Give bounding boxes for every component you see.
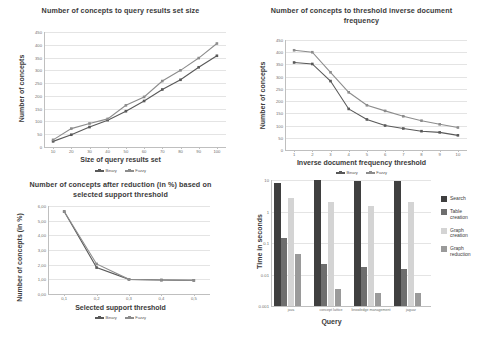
y-tick-label: 5,00: [38, 218, 46, 223]
x-tick: [129, 294, 130, 296]
bar: [415, 293, 421, 306]
legend-item: Search: [441, 196, 471, 202]
x-tick-label: 60: [142, 149, 147, 154]
legend-marker-icon: [125, 170, 134, 172]
data-point: [402, 115, 405, 118]
x-tick: [440, 150, 441, 152]
x-axis-label: Selected support threshold: [0, 304, 241, 311]
x-tick: [217, 147, 218, 149]
x-tick: [126, 147, 127, 149]
x-tick: [161, 294, 162, 296]
data-point: [106, 118, 109, 121]
legend-marker-icon: [336, 172, 345, 174]
y-tick-label: 400: [35, 42, 42, 47]
bar: [375, 293, 381, 306]
x-tick-label: 5: [366, 152, 368, 157]
bar: [408, 202, 414, 306]
x-tick: [385, 150, 386, 152]
legend-swatch-icon: [441, 228, 447, 234]
plot-area: 05010015020025030035040045012345678910: [285, 40, 467, 150]
y-tick-label: 400: [276, 50, 283, 55]
x-tick-label: 30: [87, 149, 92, 154]
plot-area: 0,001,002,003,004,005,006,000,10,20,30,4…: [48, 206, 210, 294]
y-tick-label: 150: [35, 106, 42, 111]
data-point: [70, 133, 73, 136]
x-tick: [108, 147, 109, 149]
data-point: [457, 134, 460, 137]
y-tick-label: 1: [267, 209, 269, 214]
legend-swatch-icon: [441, 196, 447, 202]
y-tick-label: 1,00: [38, 277, 46, 282]
x-tick-label: 0,3: [126, 296, 132, 301]
legend-item: Graph creation: [441, 228, 471, 240]
bar: [354, 181, 360, 306]
y-axis-label: Number of concepts: [18, 49, 25, 129]
x-tick-label: 1: [293, 152, 295, 157]
x-tick: [294, 150, 295, 152]
legend-label: Table creation: [450, 209, 468, 221]
x-tick: [349, 150, 350, 152]
y-tick-label: 0: [281, 148, 283, 153]
bar: [335, 289, 341, 306]
x-tick-label: 0,4: [158, 296, 164, 301]
bar: [328, 202, 334, 306]
data-point: [457, 126, 460, 129]
series-line: [294, 50, 458, 127]
bar: [274, 183, 280, 306]
data-point: [420, 130, 423, 133]
x-axis-label: Size of query results set: [0, 156, 241, 163]
x-tick-label: 0,2: [94, 296, 100, 301]
y-tick-label: 3,00: [38, 248, 46, 253]
x-tick-label: java: [288, 308, 295, 312]
x-tick-label: 80: [178, 149, 183, 154]
x-tick-label: 9: [439, 152, 441, 157]
data-point: [88, 126, 91, 129]
x-tick: [181, 147, 182, 149]
y-axis-line: [271, 180, 272, 306]
chart-legend: SearchTable creationGraph creationGraph …: [441, 196, 471, 265]
legend-item: Graph reduction: [441, 246, 471, 258]
data-point: [95, 263, 98, 266]
chart-title: Number of concepts to query results set …: [0, 6, 241, 16]
data-point: [293, 61, 296, 64]
data-point: [438, 123, 441, 126]
legend-marker-icon: [366, 172, 375, 174]
data-point: [88, 122, 91, 125]
x-tick-label: 3: [329, 152, 331, 157]
x-tick: [367, 150, 368, 152]
y-axis-label: Number of concepts: [259, 56, 266, 136]
data-point: [216, 42, 219, 45]
legend-label: Graph creation: [450, 228, 468, 240]
legend-swatch-icon: [441, 246, 447, 252]
y-tick-label: 200: [35, 93, 42, 98]
y-tick-label: 0,00: [38, 292, 46, 297]
y-tick-label: 450: [276, 38, 283, 43]
chart-legend: BinaryFuzzy: [0, 315, 241, 320]
plot-area: 0.0010.010.1110javaconcept latticeknowle…: [271, 180, 431, 306]
gridline: [271, 180, 431, 181]
chart-title: Number of concepts after reduction (in %…: [24, 180, 217, 199]
data-point: [63, 210, 66, 213]
y-tick-label: 100: [35, 119, 42, 124]
x-tick: [144, 147, 145, 149]
x-tick: [64, 294, 65, 296]
data-point: [193, 279, 196, 282]
data-point: [179, 78, 182, 81]
data-point: [70, 127, 73, 130]
plot-area: 0501001502002503003504004501020304050607…: [44, 32, 226, 147]
x-tick: [90, 147, 91, 149]
x-tick-label: concept lattice: [320, 308, 343, 312]
data-point: [366, 118, 369, 121]
legend-label: Fuzzy: [135, 315, 146, 320]
y-tick-label: 300: [35, 68, 42, 73]
x-tick: [422, 150, 423, 152]
legend-label: Binary: [105, 168, 116, 173]
y-tick-label: 200: [276, 99, 283, 104]
legend-item: Binary: [95, 315, 117, 320]
chart-panel-concepts-vs-idf: Number of concepts to threshold inverse …: [241, 0, 482, 176]
x-tick: [199, 147, 200, 149]
data-point: [125, 104, 128, 107]
y-tick-label: 50: [278, 135, 283, 140]
data-point: [311, 51, 314, 54]
series-layer: [285, 40, 467, 150]
